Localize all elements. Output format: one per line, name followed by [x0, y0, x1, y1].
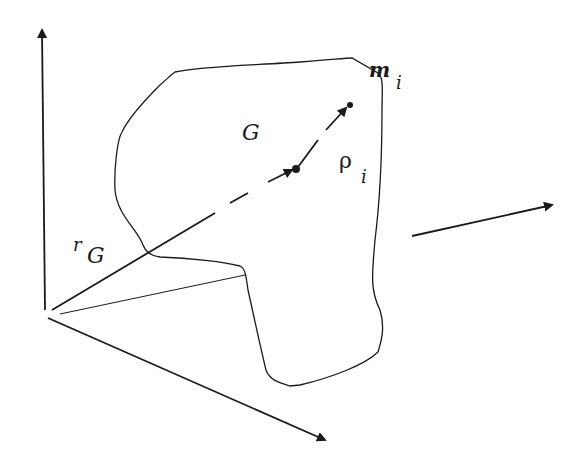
label-mass-subscript: i: [396, 74, 402, 92]
x-axis: [48, 318, 325, 440]
rigid-body-outline: [115, 58, 383, 386]
position-vector-rG: [52, 213, 215, 310]
label-r: r: [73, 236, 82, 254]
label-rho: ρ: [339, 150, 352, 172]
relative-vector-rho: [298, 140, 318, 167]
position-vector-rG-tip: [268, 170, 292, 182]
label-r-subscript: G: [87, 245, 105, 267]
particle-point: [347, 102, 353, 108]
position-vector-rG-dashed: [230, 193, 248, 203]
relative-vector-rho-tip: [326, 108, 346, 130]
z-axis: [42, 30, 45, 310]
y-axis: [412, 205, 552, 236]
label-rho-subscript: i: [361, 168, 367, 186]
label-mass: m: [369, 60, 390, 80]
diagram-canvas: [0, 0, 581, 476]
label-center-of-mass: G: [242, 122, 260, 144]
y-axis-hidden-segment: [60, 275, 245, 314]
